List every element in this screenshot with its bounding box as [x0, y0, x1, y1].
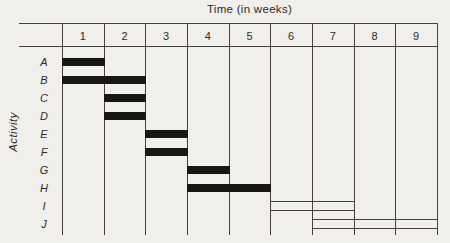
week-label: 8: [354, 27, 396, 46]
week-gridline: [145, 23, 146, 235]
activity-label: G: [32, 164, 56, 176]
gantt-grid: 123456789ABCDEFGHIJ: [0, 0, 450, 243]
gantt-bar-D: [104, 112, 147, 120]
gantt-bar-F: [145, 148, 188, 156]
week-gridline: [187, 23, 188, 235]
week-gridline: [395, 23, 396, 235]
gantt-bar-J: [312, 219, 438, 229]
gantt-bar-A: [62, 58, 105, 66]
gantt-chart-figure: Time (in weeks) Activity 123456789ABCDEF…: [0, 0, 450, 243]
week-label: 3: [145, 27, 187, 46]
gantt-bar-C: [104, 94, 147, 102]
gantt-bar-H: [187, 184, 271, 192]
activity-label: C: [32, 92, 56, 104]
week-gridline: [229, 23, 230, 235]
activity-label: B: [32, 74, 56, 86]
week-label: 2: [104, 27, 146, 46]
week-gridline: [104, 23, 105, 235]
gantt-bar-B: [62, 76, 146, 84]
gantt-bar-G: [187, 166, 230, 174]
activity-label: J: [32, 218, 56, 230]
activity-label: I: [32, 200, 56, 212]
activity-label: H: [32, 182, 56, 194]
week-gridline: [437, 23, 438, 235]
gantt-bar-E: [145, 130, 188, 138]
week-gridline: [62, 23, 63, 235]
week-label: 7: [312, 27, 354, 46]
activity-label: E: [32, 128, 56, 140]
week-label: 4: [187, 27, 229, 46]
week-label: 9: [395, 27, 437, 46]
gantt-bar-I: [270, 201, 354, 211]
activity-label: D: [32, 110, 56, 122]
activity-label: F: [32, 146, 56, 158]
week-label: 5: [229, 27, 271, 46]
week-label: 1: [62, 27, 104, 46]
week-label: 6: [270, 27, 312, 46]
activity-label: A: [32, 56, 56, 68]
